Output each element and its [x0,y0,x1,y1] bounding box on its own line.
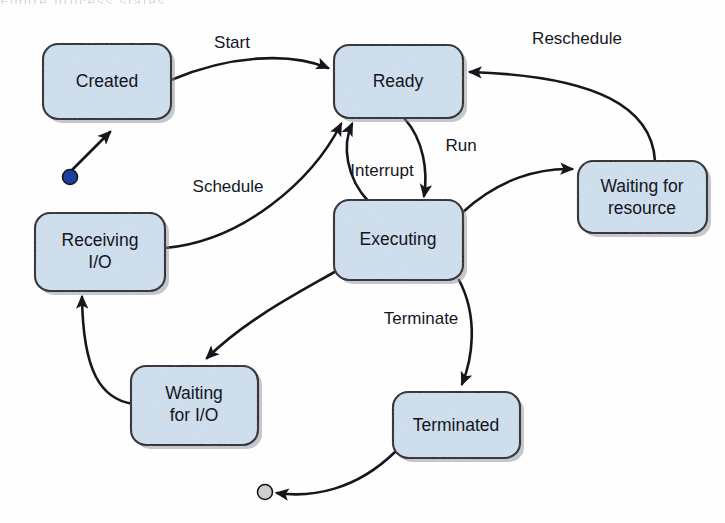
state-ready-box[interactable] [334,45,463,118]
transition-start-to-created[interactable] [72,132,110,170]
transition-terminated-to-end[interactable] [277,452,395,494]
state-receiving-io-box[interactable] [35,213,165,291]
transition-waiting-for-io-to-receiving-io[interactable] [82,297,133,404]
transition-ready-to-executing[interactable] [404,118,425,196]
state-waiting-for-io-box[interactable] [131,366,258,445]
state-waiting-for-resource[interactable]: Waiting for resource [578,161,711,237]
transition-label-interrupt: Interrupt [350,161,414,180]
transition-executing-to-waiting-for-resource[interactable] [463,169,572,212]
transition-created-to-ready[interactable] [171,58,328,80]
states-layer: Created Ready Waiting for resource Recei… [35,44,711,462]
process-state-diagram: Figure process states [0,0,725,523]
transition-label-schedule: Schedule [193,177,264,196]
diagram-canvas: Created Ready Waiting for resource Recei… [0,0,725,523]
state-waiting-for-resource-box[interactable] [578,161,707,233]
state-executing[interactable]: Executing [334,200,467,284]
state-created[interactable]: Created [43,44,175,123]
state-waiting-for-io[interactable]: Waiting for I/O [131,366,262,449]
start-node-icon[interactable] [63,170,78,185]
end-node-icon[interactable] [258,485,273,500]
state-ready[interactable]: Ready [334,45,467,122]
transition-label-terminate: Terminate [384,309,459,328]
state-created-box[interactable] [43,44,171,119]
transition-label-reschedule: Reschedule [532,29,622,48]
state-receiving-io[interactable]: Receiving I/O [35,213,169,295]
state-terminated-box[interactable] [393,392,520,458]
transition-label-start: Start [214,33,250,52]
transition-label-run: Run [445,136,476,155]
transition-receiving-io-to-ready[interactable] [165,124,341,248]
state-terminated[interactable]: Terminated [393,392,524,462]
transition-executing-to-terminated[interactable] [459,280,472,384]
state-executing-box[interactable] [334,200,463,280]
transition-executing-to-waiting-for-io[interactable] [207,270,338,358]
transition-waiting-for-resource-to-ready[interactable] [470,72,655,161]
transition-executing-to-ready[interactable] [347,124,369,202]
